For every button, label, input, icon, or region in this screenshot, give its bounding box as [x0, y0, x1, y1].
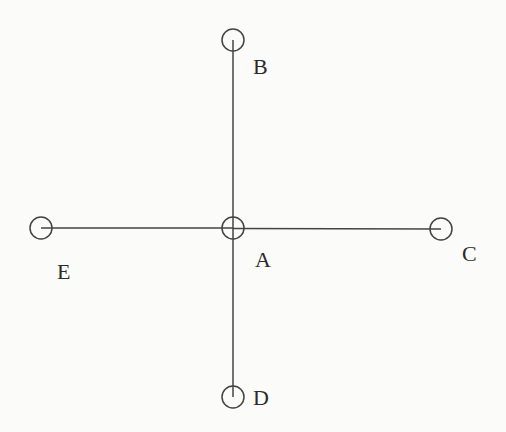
node-label-a: A	[255, 249, 271, 271]
node-label-c: C	[462, 243, 477, 265]
diagram-canvas: A B C D E	[0, 0, 506, 432]
node-label-b: B	[253, 56, 268, 78]
edge-a-c	[233, 229, 441, 230]
node-label-e: E	[57, 261, 70, 283]
node-label-d: D	[253, 387, 269, 409]
